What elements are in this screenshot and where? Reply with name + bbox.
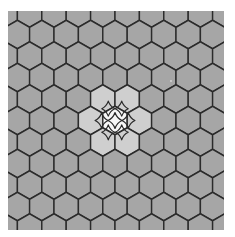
hex-cell[interactable] bbox=[225, 106, 235, 134]
hex-cell[interactable] bbox=[225, 149, 235, 177]
hex-cell[interactable] bbox=[225, 20, 235, 48]
hex-cell[interactable] bbox=[225, 63, 235, 91]
speck bbox=[170, 80, 172, 82]
hex-board[interactable] bbox=[0, 0, 235, 237]
hex-cell[interactable] bbox=[225, 192, 235, 220]
